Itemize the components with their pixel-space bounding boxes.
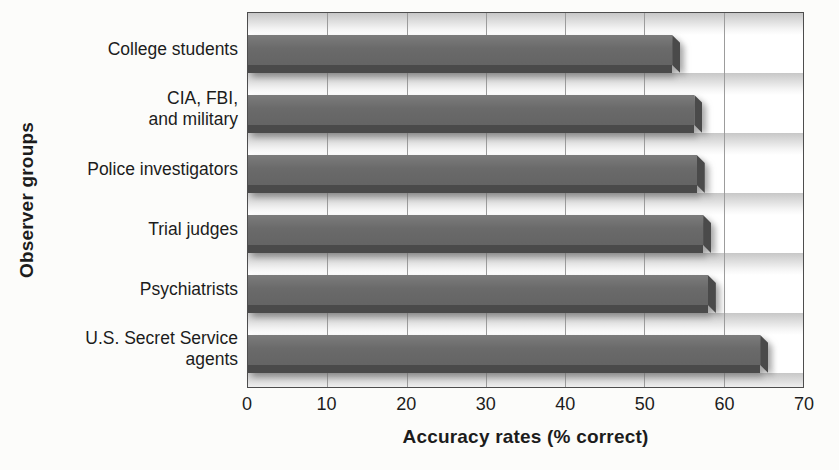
x-tick-label: 20 [396, 392, 416, 416]
category-label: U.S. Secret Service agents [85, 328, 238, 370]
category-label: CIA, FBI, and military [149, 88, 238, 130]
bar-college-students [248, 35, 672, 65]
x-axis-title: Accuracy rates (% correct) [247, 426, 804, 448]
x-tick-label: 30 [476, 392, 496, 416]
category-label: Trial judges [148, 219, 238, 240]
bar-trial-judges [248, 215, 703, 245]
category-label: Police investigators [87, 159, 238, 180]
category-labels: College studentsCIA, FBI, and militaryPo… [0, 12, 247, 388]
x-tick-label: 0 [242, 392, 252, 416]
bar-cia-fbi-and-military [248, 95, 694, 125]
x-axis-tick-labels: 010203040506070 [247, 392, 804, 416]
x-tick-label: 70 [794, 392, 814, 416]
x-tick-label: 10 [317, 392, 337, 416]
category-label: College students [108, 39, 238, 60]
bar-police-investigators [248, 155, 697, 185]
category-label: Psychiatrists [140, 279, 238, 300]
bar-psychiatrists [248, 275, 708, 305]
bar-u-s-secret-service-agents [248, 335, 760, 365]
gridline [724, 13, 725, 387]
bar-chart-figure: Observer groups College studentsCIA, FBI… [0, 0, 839, 470]
x-tick-label: 50 [635, 392, 655, 416]
plot-area [247, 12, 804, 388]
x-tick-label: 60 [714, 392, 734, 416]
x-tick-label: 40 [555, 392, 575, 416]
